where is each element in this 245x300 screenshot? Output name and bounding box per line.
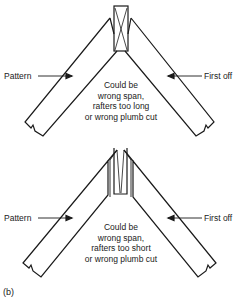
pattern-arrowhead-icon [66,74,72,79]
pattern-arrowhead-icon [66,216,72,221]
ridge-board [114,148,127,194]
first-off-arrowhead-icon [168,74,174,79]
note-line: rafters too short [76,243,166,254]
bottom-first-off-label: First off [204,213,232,223]
top-first-off-label: First off [204,71,232,81]
ridge-cross-hatch [115,8,127,50]
note-line: Could be [76,80,166,91]
figure-label: (b) [3,287,14,297]
top-pattern-label: Pattern [4,71,31,81]
first-off-arrowhead-icon [168,216,174,221]
note-line: wrong span, [76,91,166,102]
note-line: wrong span, [76,233,166,244]
note-line: or wrong plumb cut [76,112,166,123]
bottom-note: Could be wrong span, rafters too short o… [76,222,166,264]
note-line: or wrong plumb cut [76,254,166,265]
top-note: Could be wrong span, rafters too long or… [76,80,166,122]
note-line: rafters too long [76,101,166,112]
ridge-cross-hatch [117,150,124,193]
note-line: Could be [76,222,166,233]
bottom-pattern-label: Pattern [4,213,31,223]
